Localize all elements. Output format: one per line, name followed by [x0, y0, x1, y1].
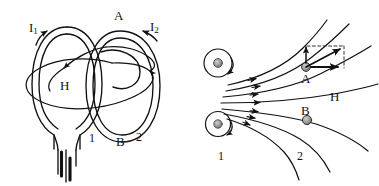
label-current-2: I2	[150, 20, 159, 35]
conductor-1-upper	[204, 49, 233, 77]
label-coil-1-number: 1	[89, 132, 95, 144]
label-field-h-right: H	[330, 90, 339, 103]
label-coil-top-a: A	[114, 9, 123, 22]
label-coil-bottom-b: B	[116, 135, 125, 148]
label-current-1: I1	[29, 21, 38, 36]
left-panel-group	[26, 27, 160, 182]
field-line-ellipse-upper	[64, 47, 106, 68]
right-panel-group	[204, 20, 378, 180]
label-coil-2-number: 2	[136, 131, 142, 143]
label-wire-2-number: 2	[297, 150, 303, 162]
field-lines-upper	[223, 20, 371, 97]
label-field-h-left: H	[60, 79, 69, 92]
label-point-b: B	[301, 104, 310, 117]
coil-2-inner-turn	[101, 50, 140, 88]
label-wire-1-number: 1	[218, 150, 224, 162]
physics-figure: I1 I2 A H 1 B 2 A B H 1 2	[0, 0, 379, 186]
field-lines-lower	[222, 109, 368, 180]
figure-canvas	[0, 0, 379, 186]
label-point-a: A	[301, 72, 310, 85]
field-line-middle	[221, 84, 378, 103]
